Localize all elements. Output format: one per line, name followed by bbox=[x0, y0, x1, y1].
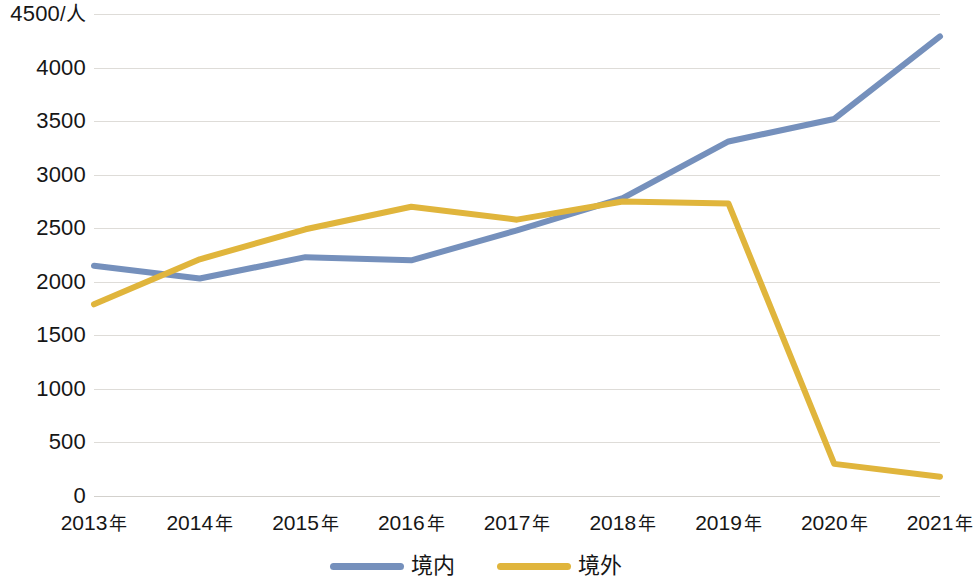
x-axis-year-suffix: 年 bbox=[321, 514, 339, 534]
x-axis-year-suffix: 年 bbox=[850, 514, 868, 534]
x-axis-tick-label: 2014年 bbox=[166, 512, 233, 533]
x-axis-tick-label: 2013年 bbox=[61, 512, 128, 533]
x-axis-tick-label: 2020年 bbox=[801, 512, 868, 533]
legend-swatch-icon bbox=[330, 563, 404, 570]
y-axis-tick-label: 4500/人 bbox=[10, 3, 86, 25]
legend-item[interactable]: 境外 bbox=[497, 555, 622, 577]
y-axis-tick-label: 4000 bbox=[36, 57, 86, 79]
x-axis-year-suffix: 年 bbox=[955, 514, 973, 534]
y-axis-tick-label: 1000 bbox=[36, 378, 86, 400]
y-axis-tick-label: 1500 bbox=[36, 324, 86, 346]
x-axis-tick-label: 2016年 bbox=[378, 512, 445, 533]
x-axis-year-suffix: 年 bbox=[532, 514, 550, 534]
y-axis-tick-label: 0 bbox=[74, 485, 86, 507]
x-axis-tick-label: 2015年 bbox=[272, 512, 339, 533]
y-axis: 050010001500200025003000350040004500/人 bbox=[0, 0, 86, 510]
series-line-境外 bbox=[94, 201, 940, 476]
x-axis-year-suffix: 年 bbox=[109, 514, 127, 534]
legend-label: 境内 bbox=[411, 555, 455, 577]
gridline bbox=[94, 496, 940, 497]
x-axis-tick-label: 2018年 bbox=[589, 512, 656, 533]
legend-item[interactable]: 境内 bbox=[330, 555, 455, 577]
x-axis-tick-label: 2017年 bbox=[484, 512, 551, 533]
y-axis-tick-label: 3000 bbox=[36, 164, 86, 186]
series-lines bbox=[94, 14, 940, 496]
y-axis-tick-label: 2500 bbox=[36, 217, 86, 239]
legend-label: 境外 bbox=[578, 555, 622, 577]
legend-swatch-icon bbox=[497, 563, 571, 570]
plot-area bbox=[94, 14, 940, 496]
series-line-境内 bbox=[94, 36, 940, 278]
x-axis-year-suffix: 年 bbox=[638, 514, 656, 534]
chart-legend: 境内境外 bbox=[0, 548, 952, 584]
x-axis-year-suffix: 年 bbox=[427, 514, 445, 534]
y-axis-tick-label: 2000 bbox=[36, 271, 86, 293]
x-axis-tick-label: 2021年 bbox=[907, 512, 973, 533]
x-axis-tick-label: 2019年 bbox=[695, 512, 762, 533]
x-axis-year-suffix: 年 bbox=[215, 514, 233, 534]
y-axis-tick-label: 3500 bbox=[36, 110, 86, 132]
x-axis-year-suffix: 年 bbox=[744, 514, 762, 534]
x-axis: 2013年2014年2015年2016年2017年2018年2019年2020年… bbox=[94, 504, 940, 540]
y-axis-tick-label: 500 bbox=[49, 431, 86, 453]
y-axis-unit: /人 bbox=[60, 3, 86, 25]
